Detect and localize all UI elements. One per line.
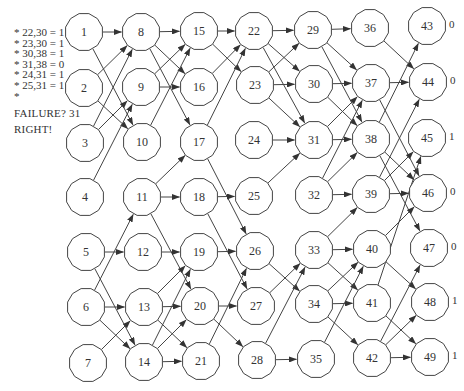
node-44: 44 bbox=[410, 64, 447, 101]
node-label: 39 bbox=[365, 187, 377, 201]
node-41: 41 bbox=[354, 285, 391, 322]
node-12: 12 bbox=[125, 234, 162, 271]
edge-20-28 bbox=[214, 319, 243, 347]
node-15: 15 bbox=[181, 13, 218, 50]
node-27: 27 bbox=[238, 288, 275, 325]
node-label: 8 bbox=[138, 25, 144, 39]
node-14: 14 bbox=[126, 344, 163, 381]
constraint-list: * 22,30 = 1 * 23,30 = 1 * 30,38 = 1 * 31… bbox=[14, 27, 64, 101]
node-2: 2 bbox=[66, 70, 103, 107]
node-label: 2 bbox=[81, 81, 87, 95]
node-label: 11 bbox=[136, 190, 148, 204]
node-label: 30 bbox=[308, 77, 320, 91]
edge-40-48 bbox=[386, 262, 416, 289]
output-value-46: 0 bbox=[450, 185, 456, 197]
node-42: 42 bbox=[354, 340, 391, 377]
node-label: 27 bbox=[250, 299, 262, 313]
node-32: 32 bbox=[296, 177, 333, 214]
node-8: 8 bbox=[123, 14, 160, 51]
node-label: 46 bbox=[422, 186, 434, 200]
node-24: 24 bbox=[236, 122, 273, 159]
node-label: 17 bbox=[193, 135, 205, 149]
node-26: 26 bbox=[237, 233, 274, 270]
node-label: 45 bbox=[421, 131, 433, 145]
edge-33-39 bbox=[328, 208, 358, 237]
node-label: 7 bbox=[85, 356, 91, 370]
node-23: 23 bbox=[237, 67, 274, 104]
node-label: 36 bbox=[364, 21, 376, 35]
edge-6-14 bbox=[100, 320, 130, 349]
node-label: 12 bbox=[137, 245, 149, 259]
node-10: 10 bbox=[124, 124, 161, 161]
node-30: 30 bbox=[296, 66, 333, 103]
node-33: 33 bbox=[296, 232, 333, 269]
edge-40-46 bbox=[385, 207, 414, 236]
node-label: 32 bbox=[308, 188, 320, 202]
node-label: 41 bbox=[366, 296, 378, 310]
node-label: 26 bbox=[249, 244, 261, 258]
node-5: 5 bbox=[68, 234, 105, 271]
node-3: 3 bbox=[67, 125, 104, 162]
node-43: 43 bbox=[409, 8, 446, 45]
node-label: 15 bbox=[193, 24, 205, 38]
node-28: 28 bbox=[239, 342, 276, 379]
node-label: 34 bbox=[308, 297, 320, 311]
output-value-layer: 0010011 bbox=[449, 18, 458, 361]
node-20: 20 bbox=[182, 288, 219, 325]
node-40: 40 bbox=[354, 231, 391, 268]
node-17: 17 bbox=[181, 124, 218, 161]
output-value-45: 1 bbox=[449, 130, 455, 142]
node-16: 16 bbox=[181, 69, 218, 106]
node-label: 42 bbox=[366, 351, 378, 365]
node-label: 14 bbox=[138, 355, 150, 369]
node-45: 45 bbox=[409, 120, 446, 157]
node-label: 48 bbox=[424, 295, 436, 309]
node-layer: 1234567891011121314151617181920212223242… bbox=[66, 8, 449, 382]
node-label: 18 bbox=[193, 190, 205, 204]
output-value-43: 0 bbox=[449, 18, 455, 30]
result-label: RIGHT! bbox=[14, 123, 52, 135]
node-label: 22 bbox=[248, 24, 260, 38]
node-35: 35 bbox=[298, 341, 335, 378]
node-label: 44 bbox=[422, 75, 434, 89]
edge-25-31 bbox=[268, 153, 300, 183]
edge-13-19 bbox=[157, 266, 185, 294]
node-label: 4 bbox=[82, 190, 88, 204]
node-39: 39 bbox=[353, 176, 390, 213]
node-label: 16 bbox=[193, 80, 205, 94]
output-value-47: 0 bbox=[451, 240, 457, 252]
node-label: 5 bbox=[83, 245, 89, 259]
node-1: 1 bbox=[66, 14, 103, 51]
edge-23-31 bbox=[269, 98, 300, 127]
node-18: 18 bbox=[181, 179, 218, 216]
edge-34-42 bbox=[328, 317, 358, 345]
node-9: 9 bbox=[123, 69, 160, 106]
node-label: 6 bbox=[83, 300, 89, 314]
node-label: 9 bbox=[138, 80, 144, 94]
node-34: 34 bbox=[296, 286, 333, 323]
constraint-line: * 25,31 = 1 bbox=[14, 80, 64, 91]
constraint-line: * 22,30 = 1 bbox=[14, 27, 64, 38]
node-label: 38 bbox=[365, 132, 377, 146]
node-22: 22 bbox=[236, 13, 273, 50]
edge-32-38 bbox=[328, 153, 358, 182]
edge-29-36 bbox=[332, 29, 351, 30]
node-label: 1 bbox=[81, 25, 87, 39]
node-label: 13 bbox=[138, 300, 150, 314]
node-48: 48 bbox=[412, 284, 449, 321]
network-diagram: 1234567891011121314151617181920212223242… bbox=[0, 0, 464, 391]
node-label: 20 bbox=[194, 299, 206, 313]
edge-11-17 bbox=[156, 156, 185, 184]
node-label: 40 bbox=[366, 242, 378, 256]
node-36: 36 bbox=[352, 10, 389, 47]
edge-16-22 bbox=[212, 45, 240, 74]
node-29: 29 bbox=[295, 12, 332, 49]
node-11: 11 bbox=[124, 179, 161, 216]
node-38: 38 bbox=[353, 121, 390, 158]
failure-label: FAILURE? 31 bbox=[14, 107, 80, 119]
edge-2-8 bbox=[98, 46, 128, 75]
node-13: 13 bbox=[126, 289, 163, 326]
node-label: 3 bbox=[82, 136, 88, 150]
constraint-line: * bbox=[14, 91, 64, 102]
node-25: 25 bbox=[236, 178, 273, 215]
